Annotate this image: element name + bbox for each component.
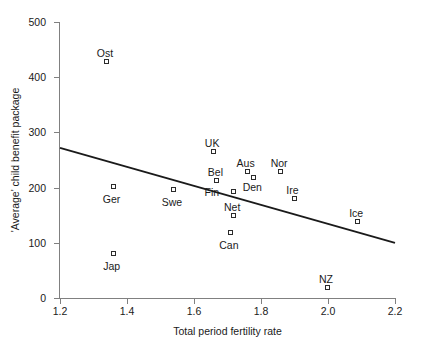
data-point-label: Ire (286, 185, 298, 196)
data-point-marker (251, 175, 256, 180)
data-point-marker (104, 59, 109, 64)
data-point-label: Can (219, 240, 238, 251)
scatter-chart: 0100200300400500 1.21.41.61.82.02.2 OstG… (0, 0, 422, 349)
data-point-marker (355, 219, 360, 224)
data-point-label: Aus (237, 158, 255, 169)
data-point-marker (325, 285, 330, 290)
data-point-marker (278, 169, 283, 174)
data-point-label: Nor (271, 158, 288, 169)
data-point-marker (111, 251, 116, 256)
data-point-label: Bel (208, 167, 223, 178)
data-point-label: Swe (162, 197, 182, 208)
data-point-label: Fin (205, 187, 220, 198)
data-point-label: Ost (97, 48, 113, 59)
data-point-marker (245, 169, 250, 174)
data-point-marker (292, 196, 297, 201)
data-point-marker (171, 187, 176, 192)
data-point-label: Den (243, 182, 262, 193)
data-point-label: Jap (103, 261, 120, 272)
plot-area: OstGerJapSweUKBelFinNetCanAusDenNorIreNZ… (60, 22, 395, 298)
data-point-label: Ice (349, 208, 363, 219)
y-axis-title: 'Average' child benefit package (8, 22, 22, 298)
x-axis-title: Total period fertility rate (60, 325, 395, 337)
data-point-marker (228, 230, 233, 235)
data-point-marker (214, 178, 219, 183)
data-point-label: Ger (103, 194, 121, 205)
data-point-label: UK (205, 138, 220, 149)
data-point-marker (111, 184, 116, 189)
data-point-marker (231, 213, 236, 218)
data-point-marker (211, 149, 216, 154)
data-point-marker (231, 189, 236, 194)
data-point-label: NZ (319, 274, 333, 285)
data-point-label: Net (224, 202, 240, 213)
